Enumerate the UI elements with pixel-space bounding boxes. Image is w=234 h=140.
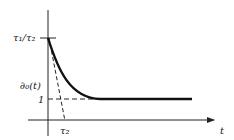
y-tick-one-label: 1 xyxy=(38,94,44,105)
y-tick-top-label: τ₁/τ₂ xyxy=(13,32,35,43)
x-axis-label: t xyxy=(220,125,225,136)
curve-label: ∂₀(t) xyxy=(20,80,41,91)
x-tick-label: τ₂ xyxy=(60,125,70,136)
decay-curve xyxy=(48,38,192,99)
decay-diagram: τ₁/τ₂ 1 ∂₀(t) τ₂ t xyxy=(0,0,234,140)
